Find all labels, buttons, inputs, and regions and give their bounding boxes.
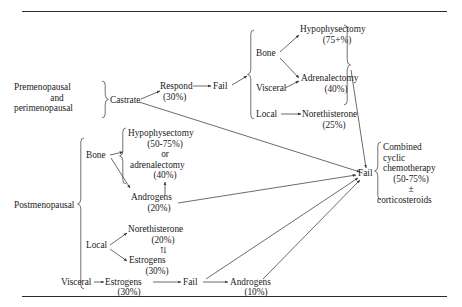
postmeno-visceral-androgens-pct: (10%) [244, 287, 267, 298]
edge-postmeno-androgens-to-outcome [178, 175, 356, 203]
postmeno-option-adrenalectomy-pct: (40%) [153, 170, 176, 181]
postmeno-bone-options-brace [120, 128, 126, 184]
outcome-pct: (50-75%) [393, 174, 429, 185]
postmenopausal-site-bone: Bone [86, 150, 106, 160]
respond-pct: (30%) [163, 92, 186, 103]
premenopausal-site-local: Local [256, 109, 278, 119]
outcome-plus-minus: ± [408, 184, 413, 194]
edge-bone-to-hypophysectomy [280, 35, 299, 52]
postmeno-androgens-pct: (20%) [147, 203, 170, 214]
premenopausal-group-brace [102, 81, 108, 118]
edge-local-to-estrogens-post [110, 249, 127, 261]
outcome-brace [375, 142, 381, 200]
postmenopausal-site-local: Local [86, 240, 108, 250]
premenopausal-fail-node: Fail [213, 81, 228, 91]
postmeno-option-adrenalectomy: adrenalectomy [130, 160, 185, 170]
respond-node: Respond [160, 81, 193, 91]
outcome-fail-node: Fail [358, 168, 373, 178]
postmeno-visceral-fail: Fail [183, 277, 198, 287]
postmenopausal-sites-brace [78, 138, 84, 289]
premenopausal-option-adrenalectomy: Adrenalectomy [301, 73, 359, 83]
premenopausal-site-bone: Bone [256, 48, 276, 58]
interchange-arrows-icon: ⇅ [159, 245, 167, 255]
castrate-node: Castrate [110, 95, 140, 105]
edge-postmeno-bone-to-androgens [111, 158, 130, 188]
postmeno-local-estrogens-pct: (30%) [145, 266, 168, 277]
premenopausal-sites-brace [248, 30, 254, 119]
postmeno-local-norethisterone: Norethisterone [128, 224, 183, 234]
postmenopausal-site-visceral: Visceral [61, 277, 92, 287]
postmenopausal-label: Postmenopausal [14, 200, 75, 210]
outcome-line5: corticosteroids [377, 195, 432, 205]
postmeno-option-hypophysectomy-pct: (50-75%) [147, 139, 183, 150]
edge-postmeno-bone-to-options [110, 152, 123, 155]
outcome-line2: cyclic [383, 153, 405, 163]
edge-bone-to-adrenalectomy [280, 58, 299, 78]
edge-visceral-androgens-to-outcome [263, 180, 360, 279]
premenopausal-site-visceral: Visceral [256, 83, 287, 93]
edge-premenopausal-options-to-outcome-fail [351, 70, 366, 168]
edge-visceral-to-adrenalectomy [285, 81, 299, 88]
edge-castrate-to-respond [141, 91, 160, 99]
premenopausal-option-norethisterone-pct: (25%) [322, 120, 345, 131]
edge-local-to-norethisterone-post [110, 233, 127, 245]
edge-visceral-fail-to-outcome [206, 178, 358, 279]
premenopausal-option-adrenalectomy-pct: (40%) [324, 84, 347, 95]
postmeno-option-hypophysectomy: Hypophysectomy [128, 128, 194, 138]
outcome-line1: Combined [383, 142, 422, 152]
premenopausal-label-line3: perimenopausal [14, 103, 73, 113]
postmeno-visceral-estrogens-pct: (30%) [117, 287, 140, 298]
outcome-line3: chemotherapy [383, 163, 436, 173]
postmeno-androgens: Androgens [131, 192, 172, 202]
postmeno-local-estrogens: Estrogens [129, 255, 166, 265]
premenopausal-label-line2: and [50, 93, 64, 103]
postmeno-option-conjunction: or [161, 149, 170, 159]
postmeno-visceral-androgens: Androgens [230, 277, 271, 287]
edge-fail-to-site-group [232, 76, 247, 85]
premenopausal-option-norethisterone: Norethisterone [302, 109, 357, 119]
postmeno-visceral-estrogens: Estrogens [105, 277, 142, 287]
premenopausal-label-line1: Premenopausal [14, 82, 71, 92]
premenopausal-option-hypophysectomy: Hypophysectomy [300, 24, 366, 34]
treatment-flowchart: Premenopausal and perimenopausal Castrat… [0, 0, 462, 307]
